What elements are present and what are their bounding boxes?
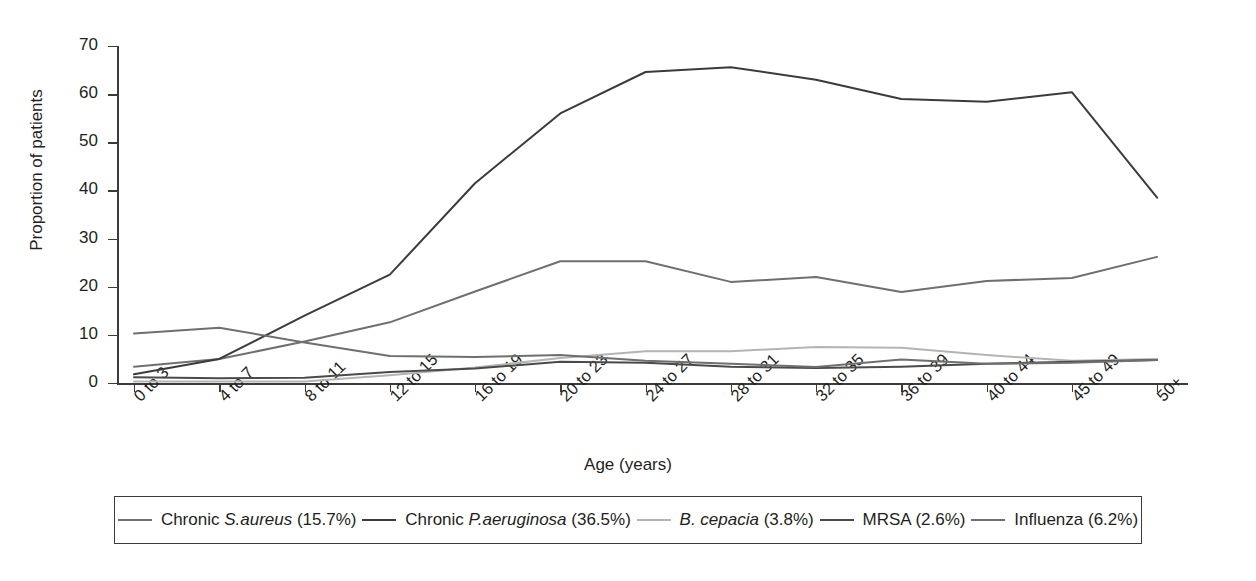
- y-tick-mark: [108, 94, 117, 95]
- legend-label: Chronic S.aureus (15.7%): [161, 510, 357, 530]
- y-tick-mark: [108, 335, 117, 336]
- chart-legend: Chronic S.aureus (15.7%)Chronic P.aerugi…: [114, 496, 1142, 544]
- y-tick-label: 10: [38, 324, 98, 344]
- x-axis-title: Age (years): [0, 455, 1256, 475]
- y-tick-mark: [108, 46, 117, 47]
- legend-label: Chronic P.aeruginosa (36.5%): [405, 510, 631, 530]
- y-tick-label: 0: [38, 372, 98, 392]
- y-tick-mark: [108, 287, 117, 288]
- legend-item[interactable]: MRSA (2.6%): [820, 510, 966, 530]
- y-tick-mark: [108, 239, 117, 240]
- legend-item[interactable]: Chronic S.aureus (15.7%): [118, 510, 357, 530]
- legend-line-swatch-icon: [820, 519, 854, 521]
- series-lines: [118, 46, 1188, 383]
- y-tick-label: 60: [38, 83, 98, 103]
- legend-line-swatch-icon: [637, 519, 671, 521]
- legend-line-swatch-icon: [118, 519, 152, 521]
- legend-item[interactable]: Chronic P.aeruginosa (36.5%): [362, 510, 631, 530]
- y-tick-label: 20: [38, 276, 98, 296]
- legend-label: Influenza (6.2%): [1014, 510, 1138, 530]
- y-tick-mark: [108, 142, 117, 143]
- y-axis-title: Proportion of patients: [27, 40, 47, 300]
- y-tick-mark: [108, 190, 117, 191]
- chart-figure: Proportion of patients 010203040506070 0…: [0, 0, 1256, 581]
- legend-item[interactable]: Influenza (6.2%): [971, 510, 1138, 530]
- y-tick-label: 70: [38, 35, 98, 55]
- legend-label: B. cepacia (3.8%): [680, 510, 814, 530]
- y-tick-mark: [108, 383, 117, 384]
- y-tick-label: 50: [38, 131, 98, 151]
- plot-area: [118, 46, 1188, 383]
- series-line: [134, 257, 1157, 367]
- series-line: [134, 67, 1157, 374]
- legend-line-swatch-icon: [971, 519, 1005, 521]
- legend-line-swatch-icon: [362, 519, 396, 521]
- series-line: [134, 328, 1157, 367]
- legend-label: MRSA (2.6%): [863, 510, 966, 530]
- y-tick-label: 40: [38, 179, 98, 199]
- y-tick-label: 30: [38, 228, 98, 248]
- legend-item[interactable]: B. cepacia (3.8%): [637, 510, 814, 530]
